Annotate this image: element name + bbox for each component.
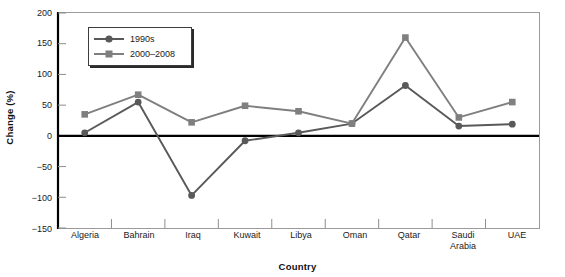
data-point-marker — [295, 129, 302, 136]
x-tick-label-saudi-arabia: SaudiArabia — [436, 230, 490, 251]
data-point-marker — [188, 192, 195, 199]
data-point-marker — [509, 121, 516, 128]
x-axis-title: Country — [279, 261, 317, 272]
legend-item-2000-2008[interactable]: 2000–2008 — [89, 46, 191, 61]
legend: 1990s 2000–2008 — [88, 27, 192, 66]
x-tick-label-algeria: Algeria — [58, 230, 112, 241]
data-point-marker — [509, 99, 516, 106]
legend-label-1990s: 1990s — [130, 34, 155, 44]
data-point-marker — [188, 119, 195, 126]
legend-item-1990s[interactable]: 1990s — [89, 31, 191, 46]
data-point-marker — [242, 137, 249, 144]
legend-label-2000-2008: 2000–2008 — [130, 49, 175, 59]
data-point-marker — [242, 102, 249, 109]
x-tick-label-saudi-arabia-line2: Arabia — [450, 241, 476, 251]
legend-swatch-circle-icon — [93, 33, 125, 45]
x-axis-title-wrapper: Country — [55, 256, 540, 274]
data-point-marker — [349, 120, 356, 127]
legend-swatch-square-icon — [93, 48, 125, 60]
data-point-marker — [81, 129, 88, 136]
data-point-marker — [456, 114, 463, 121]
line-chart: Change (%) 200 150 100 50 0 −50 −100 −15… — [0, 0, 565, 277]
x-tick-label-libya: Libya — [274, 230, 328, 241]
x-tick-label-qatar: Qatar — [382, 230, 436, 241]
x-tick-label-uae: UAE — [490, 230, 544, 241]
data-point-marker — [402, 34, 409, 41]
x-tick-label-iraq: Iraq — [166, 230, 220, 241]
data-point-marker — [135, 91, 142, 98]
x-tick-label-saudi-arabia-line1: Saudi — [451, 230, 474, 240]
x-tick-label-bahrain: Bahrain — [112, 230, 166, 241]
data-point-marker — [81, 111, 88, 118]
data-point-marker — [295, 108, 302, 115]
data-point-marker — [455, 123, 462, 130]
x-tick-label-oman: Oman — [328, 230, 382, 241]
data-point-marker — [402, 82, 409, 89]
data-point-marker — [135, 99, 142, 106]
x-tick-label-kuwait: Kuwait — [220, 230, 274, 241]
